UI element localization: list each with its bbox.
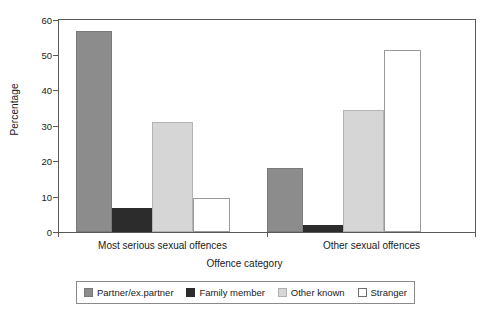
legend-item-other-known: Other known — [278, 287, 345, 298]
bar-g2-partner — [267, 168, 303, 232]
legend-item-family: Family member — [186, 287, 264, 298]
y-tick-label-50: 50 — [0, 51, 52, 61]
chart-legend: Partner/ex.partner Family member Other k… — [76, 281, 415, 304]
x-group-label-most-serious: Most serious sexual offences — [58, 240, 267, 251]
x-group-label-other: Other sexual offences — [267, 240, 476, 251]
x-tick-right-edge — [475, 232, 476, 237]
legend-item-partner: Partner/ex.partner — [84, 287, 174, 298]
bar-g1-other-known — [152, 122, 193, 232]
y-tick-label-0: 0 — [0, 228, 52, 238]
legend-label-partner: Partner/ex.partner — [97, 287, 174, 298]
stranger-swatch-icon — [358, 288, 367, 297]
x-tick-group-separator — [267, 232, 268, 237]
y-tick-label-60: 60 — [0, 16, 52, 26]
other-known-swatch-icon — [278, 288, 287, 297]
y-tick-label-30: 30 — [0, 122, 52, 132]
partner-swatch-icon — [84, 288, 93, 297]
legend-label-other-known: Other known — [291, 287, 345, 298]
x-tick-left-edge — [58, 232, 59, 237]
bar-chart: Percentage 60 50 40 30 20 10 0 Most seri… — [0, 0, 489, 320]
bar-g1-stranger — [193, 198, 230, 232]
family-swatch-icon — [186, 288, 195, 297]
bar-g1-family — [112, 208, 152, 232]
legend-label-stranger: Stranger — [371, 287, 407, 298]
y-axis-title: Percentage — [9, 50, 20, 170]
y-tick-label-10: 10 — [0, 193, 52, 203]
legend-item-stranger: Stranger — [358, 287, 407, 298]
x-axis-title: Offence category — [0, 258, 489, 269]
bar-g1-partner — [76, 31, 112, 232]
y-tick-label-40: 40 — [0, 86, 52, 96]
bars-layer — [58, 19, 476, 232]
y-tick-label-20: 20 — [0, 157, 52, 167]
bar-g2-other-known — [343, 110, 384, 232]
legend-label-family: Family member — [199, 287, 264, 298]
bar-g2-family — [303, 225, 343, 232]
bar-g2-stranger — [384, 50, 421, 232]
